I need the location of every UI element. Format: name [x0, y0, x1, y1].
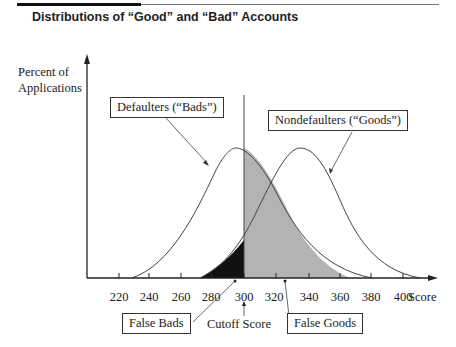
goods-pointer	[331, 132, 352, 171]
bads-pointer	[165, 117, 207, 163]
y-axis-arrow-icon	[84, 54, 90, 64]
false-goods-label-box: False Goods	[287, 313, 363, 334]
false-goods-pointer	[285, 281, 289, 316]
false-goods-region	[244, 148, 350, 278]
cutoff-score-label: Cutoff Score	[207, 317, 271, 332]
bads-pointer-head-icon	[203, 160, 209, 166]
y-axis-label-line2: Applications	[18, 80, 82, 96]
x-tick-label: 240	[140, 290, 159, 305]
chart-plot	[0, 0, 456, 347]
false-bads-pointer-dot-icon	[234, 280, 237, 283]
x-tick-label: 220	[110, 290, 129, 305]
x-axis-label: Score	[408, 290, 436, 305]
bads-label-box: Defaulters (“Bads”)	[110, 97, 224, 118]
x-axis-arrow-icon	[428, 275, 438, 281]
x-tick-label: 320	[265, 290, 284, 305]
x-tick-label: 260	[172, 290, 191, 305]
false-bads-label-box: False Bads	[122, 313, 191, 334]
goods-label-box: Nondefaulters (“Goods”)	[268, 110, 408, 131]
x-tick-label: 280	[202, 290, 221, 305]
y-axis-label: Percent of Applications	[18, 64, 82, 96]
false-goods-pointer-dot-icon	[284, 280, 287, 283]
x-tick-label: 340	[300, 290, 319, 305]
x-tick-label: 380	[362, 290, 381, 305]
y-axis-label-line1: Percent of	[18, 64, 82, 80]
x-tick-label: 300	[235, 290, 254, 305]
x-tick-label: 360	[331, 290, 350, 305]
